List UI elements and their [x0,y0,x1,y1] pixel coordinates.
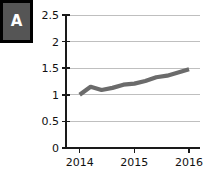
y-tick-label-2: 2 [52,36,59,49]
axis-lines [66,15,200,148]
x-tick-label-2014: 2014 [66,156,94,169]
y-tick-label-0: 0 [52,142,59,155]
y-tick-label-2.5: 2.5 [42,9,60,22]
x-tick-label-2015: 2015 [120,156,148,169]
y-tick-label-1.5: 1.5 [42,62,60,75]
data-line-series-1 [80,69,189,95]
x-tick-label-2016: 2016 [175,156,203,169]
x-tick-labels: 201420152016 [66,156,203,169]
figure-panel-a: A 00.511.522.5 201420152016 [0,0,208,173]
data-series [80,69,189,95]
line-chart: 00.511.522.5 201420152016 [0,0,208,173]
y-tick-label-0.5: 0.5 [42,115,60,128]
gridlines [66,15,200,121]
y-tick-labels: 00.511.522.5 [42,9,60,155]
y-tick-label-1: 1 [52,89,59,102]
